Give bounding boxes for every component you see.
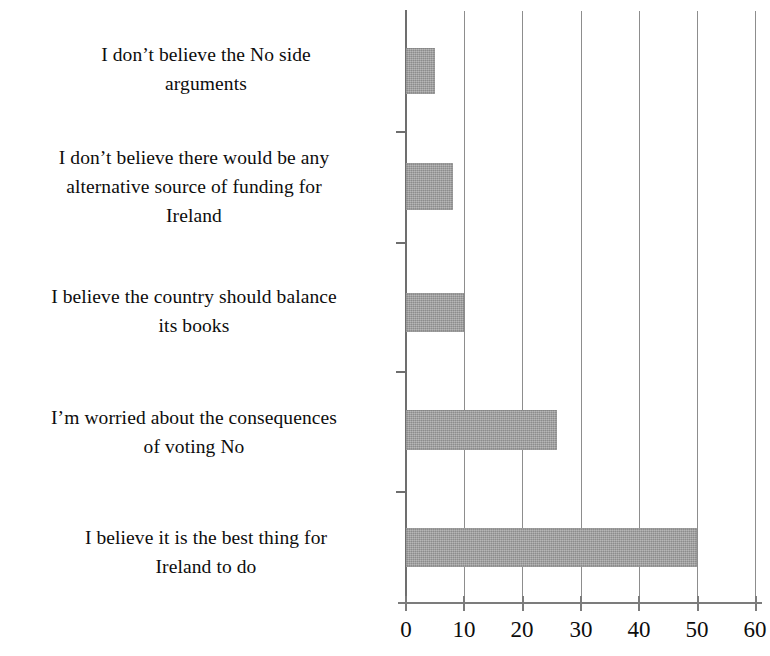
- x-axis-tick-10: [463, 596, 465, 611]
- x-axis-label-20: 20: [492, 615, 552, 645]
- category-axis-labels: I don’t believe the No side arguments I …: [0, 0, 400, 656]
- category-label-4: I’m worried about the consequences of vo…: [0, 403, 390, 461]
- bar-2: [406, 163, 453, 210]
- y-axis-tick-4: [396, 491, 406, 493]
- category-label-3: I believe the country should balance its…: [0, 282, 390, 340]
- bar-1: [406, 48, 435, 94]
- x-axis-label-30: 30: [551, 615, 611, 645]
- gridline-20: [522, 11, 523, 603]
- y-axis-tick-3: [396, 371, 406, 373]
- x-axis-tick-40: [638, 596, 640, 611]
- bar-chart: I don’t believe the No side arguments I …: [0, 0, 770, 656]
- x-axis-tick-20: [522, 596, 524, 611]
- gridline-40: [639, 11, 640, 603]
- category-label-2: I don’t believe there would be any alter…: [0, 143, 390, 230]
- y-axis-tick-1: [396, 131, 406, 133]
- category-label-5: I believe it is the best thing for Irela…: [22, 523, 390, 581]
- x-axis-label-40: 40: [609, 615, 669, 645]
- x-axis-tick-30: [580, 596, 582, 611]
- gridline-60: [755, 11, 756, 603]
- bar-4: [406, 410, 557, 450]
- x-axis-tick-60: [755, 596, 757, 611]
- gridline-50: [697, 11, 698, 603]
- y-axis-tick-2: [396, 242, 406, 244]
- x-axis-tick-0: [405, 596, 407, 611]
- x-axis-label-10: 10: [434, 615, 494, 645]
- bar-3: [406, 293, 464, 332]
- gridline-30: [581, 11, 582, 603]
- x-axis-label-50: 50: [667, 615, 727, 645]
- bar-5: [406, 528, 697, 567]
- plot-area: [406, 11, 755, 603]
- category-label-1: I don’t believe the No side arguments: [22, 40, 390, 98]
- x-axis-label-0: 0: [376, 615, 436, 645]
- x-axis-tick-50: [697, 596, 699, 611]
- x-axis-label-60: 60: [725, 615, 770, 645]
